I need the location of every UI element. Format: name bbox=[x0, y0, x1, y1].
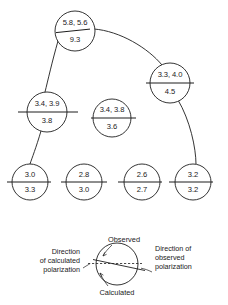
station-node-n4[interactable]: 3.4, 3.8 3.6 bbox=[91, 99, 136, 137]
node-calculated-n5: 3.3 bbox=[25, 185, 35, 194]
station-node-n5[interactable]: 3.0 3.3 bbox=[7, 164, 51, 200]
node-observed-n4: 3.4, 3.8 bbox=[100, 105, 125, 114]
connector-n1-n2 bbox=[94, 29, 162, 65]
station-node-n2[interactable]: 3.3, 4.0 4.5 bbox=[146, 63, 194, 103]
station-node-n8[interactable]: 3.2 3.2 bbox=[169, 164, 213, 200]
node-observed-n6: 2.8 bbox=[79, 170, 89, 179]
node-calculated-n2: 4.5 bbox=[165, 87, 175, 96]
connector-n1-n3 bbox=[45, 41, 58, 92]
node-observed-n7: 2.6 bbox=[137, 170, 147, 179]
node-calculated-n3: 3.8 bbox=[42, 116, 52, 125]
polarization-figure: 5.8, 5.6 9.3 3.3, 4.0 4.5 3.4, 3.9 3.8 3… bbox=[0, 0, 228, 305]
node-calculated-n7: 2.7 bbox=[137, 185, 147, 194]
node-observed-n3: 3.4, 3.9 bbox=[35, 99, 60, 108]
node-observed-n8: 3.2 bbox=[188, 170, 198, 179]
node-observed-n1: 5.8, 5.6 bbox=[63, 18, 88, 27]
node-calculated-n6: 3.0 bbox=[79, 185, 89, 194]
station-node-n7[interactable]: 2.6 2.7 bbox=[118, 164, 162, 200]
node-observed-n2: 3.3, 4.0 bbox=[158, 70, 183, 79]
figure-canvas: 5.8, 5.6 9.3 3.3, 4.0 4.5 3.4, 3.9 3.8 3… bbox=[0, 0, 228, 305]
legend-right-label-line-1: Direction of bbox=[155, 244, 191, 253]
node-observed-n5: 3.0 bbox=[25, 170, 35, 179]
legend-circle bbox=[96, 243, 138, 285]
legend-left-label-line-1: Direction bbox=[52, 247, 80, 256]
legend-right-label-line-3: polarization bbox=[155, 262, 192, 271]
legend-left-label-line-2: of calculated bbox=[40, 256, 80, 265]
station-node-n6[interactable]: 2.8 3.0 bbox=[61, 164, 107, 200]
node-calculated-n1: 9.3 bbox=[70, 35, 80, 44]
legend-left-leader bbox=[83, 264, 90, 268]
legend: Observed Calculated Direction of calcula… bbox=[40, 235, 192, 297]
node-calculated-n8: 3.2 bbox=[188, 185, 198, 194]
legend-right-label-line-2: observed bbox=[155, 253, 185, 262]
legend-observed-label: Observed bbox=[108, 235, 140, 244]
station-node-n1[interactable]: 5.8, 5.6 9.3 bbox=[55, 11, 95, 51]
legend-calculated-label: Calculated bbox=[100, 288, 135, 297]
connector-n3-n5 bbox=[30, 131, 41, 164]
connector-n2-n8 bbox=[178, 100, 196, 164]
node-calculated-n4: 3.6 bbox=[107, 122, 117, 131]
station-node-n3[interactable]: 3.4, 3.9 3.8 bbox=[18, 92, 78, 132]
legend-left-label-line-3: polarization bbox=[43, 265, 80, 274]
